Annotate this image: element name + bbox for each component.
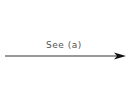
right-arrow-icon: [0, 0, 137, 103]
